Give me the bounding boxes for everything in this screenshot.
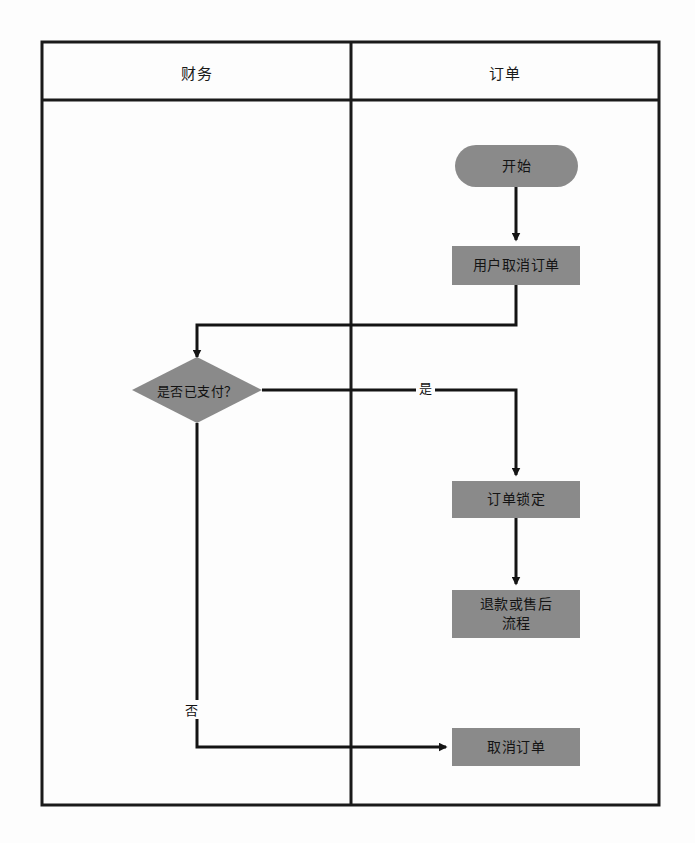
node-refund-process-label-line2: 流程 xyxy=(502,614,531,633)
node-decision-paid-label: 是否已支付？ xyxy=(132,381,262,400)
edge-label-yes: 是 xyxy=(416,378,435,397)
diagram-connectors xyxy=(0,0,695,843)
node-start[interactable]: 开始 xyxy=(455,145,578,187)
node-cancel-order[interactable]: 取消订单 xyxy=(452,728,580,766)
node-refund-process[interactable]: 退款或售后 流程 xyxy=(452,590,580,638)
node-start-label: 开始 xyxy=(502,157,531,176)
edge-decision-no-to-cancel xyxy=(197,423,446,747)
edge-label-no: 否 xyxy=(182,700,201,719)
node-refund-process-label-line1: 退款或售后 xyxy=(480,595,553,614)
node-user-cancel-order[interactable]: 用户取消订单 xyxy=(452,246,580,285)
edge-cancelreq-to-decision xyxy=(197,285,516,357)
lane-title-order: 订单 xyxy=(351,62,659,83)
node-order-lock-label: 订单锁定 xyxy=(487,490,545,509)
flowchart-canvas: 财务 订单 开始 用户取消订单 是否已支付？ 订单锁定 退款或售后 流程 取消订… xyxy=(0,0,695,843)
node-user-cancel-order-label: 用户取消订单 xyxy=(473,256,560,275)
edge-decision-yes-to-lock xyxy=(262,390,516,475)
node-order-lock[interactable]: 订单锁定 xyxy=(452,481,580,518)
lane-title-finance: 财务 xyxy=(42,62,351,83)
node-cancel-order-label: 取消订单 xyxy=(487,738,545,757)
